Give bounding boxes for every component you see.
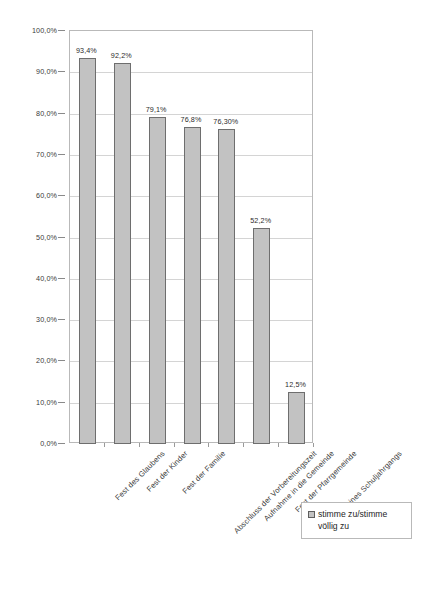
bar (79, 58, 96, 444)
y-axis-tick-label: 90,0% (36, 67, 57, 76)
bar-value-label: 52,2% (250, 216, 271, 225)
bar-chart: 0,0%10,0%20,0%30,0%40,0%50,0%60,0%70,0%8… (0, 0, 424, 595)
legend-label: stimme zu/stimme völlig zu (318, 509, 405, 532)
bar-value-label: 79,1% (146, 105, 167, 114)
y-axis-tick-mark (58, 113, 65, 114)
x-axis-tick-mark (278, 443, 279, 447)
y-axis-tick-label: 80,0% (36, 108, 57, 117)
legend-swatch-icon (308, 511, 315, 518)
y-axis-tick-mark (58, 71, 65, 72)
x-axis-tick-mark (139, 443, 140, 447)
bar (253, 228, 270, 444)
bar (184, 127, 201, 444)
bar-value-label: 76,30% (213, 117, 238, 126)
x-axis-tick-mark (104, 443, 105, 447)
bar-value-label: 93,4% (76, 46, 97, 55)
x-axis-tick-mark (243, 443, 244, 447)
bar-value-label: 12,5% (285, 380, 306, 389)
y-axis-tick-mark (58, 154, 65, 155)
y-axis-tick-mark (58, 360, 65, 361)
x-axis-tick-mark (208, 443, 209, 447)
y-axis-tick-label: 20,0% (36, 356, 57, 365)
y-axis-tick-mark (58, 30, 65, 31)
bar (149, 117, 166, 444)
y-axis-tick-mark (58, 195, 65, 196)
bar (114, 63, 131, 444)
bar (218, 129, 235, 444)
y-axis-tick-mark (58, 319, 65, 320)
plot-area (69, 30, 313, 443)
bar (288, 392, 305, 444)
y-axis-tick-label: 30,0% (36, 315, 57, 324)
x-axis-tick-mark (313, 443, 314, 447)
gridline (70, 72, 312, 73)
x-axis-tick-mark (174, 443, 175, 447)
y-axis-tick-label: 60,0% (36, 191, 57, 200)
y-axis-tick-label: 70,0% (36, 149, 57, 158)
bar-value-label: 92,2% (111, 51, 132, 60)
y-axis-tick-mark (58, 278, 65, 279)
y-axis-tick-label: 10,0% (36, 397, 57, 406)
y-axis-tick-label: 40,0% (36, 273, 57, 282)
y-axis-tick-label: 50,0% (36, 232, 57, 241)
y-axis-tick-mark (58, 402, 65, 403)
y-axis-tick-label: 100,0% (32, 26, 57, 35)
bar-value-label: 76,8% (181, 115, 202, 124)
chart-legend: stimme zu/stimme völlig zu (301, 502, 412, 539)
y-axis-tick-mark (58, 237, 65, 238)
